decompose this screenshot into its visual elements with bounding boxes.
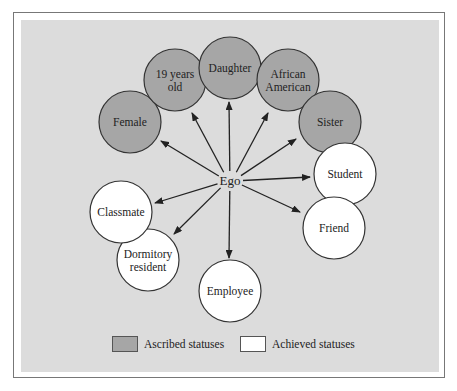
arrow-to-friend xyxy=(242,185,300,212)
status-label: Student xyxy=(327,168,363,180)
legend-achieved-label: Achieved statuses xyxy=(272,338,355,350)
status-label: Female xyxy=(113,116,147,128)
status-label: Friend xyxy=(319,222,349,234)
status-node-daughter: Daughter xyxy=(199,37,261,99)
status-label: Classmate xyxy=(97,206,144,218)
ego-label: Ego xyxy=(220,173,241,188)
status-node-classmate: Classmate xyxy=(90,181,152,243)
status-label: Employee xyxy=(207,285,254,298)
arrow-to-african-american xyxy=(236,113,268,172)
arrow-to-sister xyxy=(241,139,296,176)
status-node-friend: Friend xyxy=(303,197,365,259)
ego-status-diagram: Female19 yearsoldDaughterAfricanAmerican… xyxy=(0,0,457,391)
arrow-to-daughter xyxy=(229,102,230,171)
status-label: African xyxy=(270,68,305,80)
status-label: old xyxy=(168,81,183,93)
status-node-employee: Employee xyxy=(199,260,261,322)
status-label: American xyxy=(265,81,311,93)
status-label: resident xyxy=(130,261,167,273)
ascribed-swatch xyxy=(112,336,138,352)
status-label: Dormitory xyxy=(124,248,173,261)
status-label: Daughter xyxy=(209,62,252,75)
arrow-to-student xyxy=(243,177,310,181)
achieved-swatch xyxy=(240,336,266,352)
status-label: 19 years xyxy=(156,68,195,81)
legend-ascribed: Ascribed statuses xyxy=(112,336,224,352)
status-node-19-years-old: 19 yearsold xyxy=(144,49,206,111)
legend-achieved: Achieved statuses xyxy=(240,336,355,352)
status-label: Sister xyxy=(317,116,343,128)
arrow-to-employee xyxy=(229,191,230,258)
legend-ascribed-label: Ascribed statuses xyxy=(144,338,224,350)
status-node-student: Student xyxy=(314,143,376,205)
